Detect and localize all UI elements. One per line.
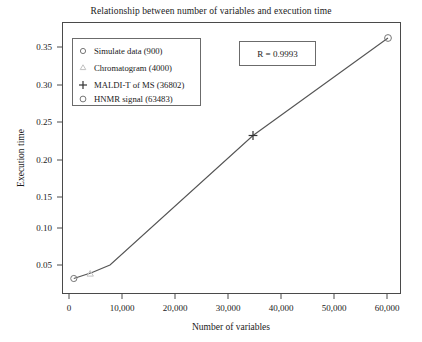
legend-label: HNMR signal (63483) xyxy=(94,94,173,104)
x-tick-label: 0 xyxy=(67,303,72,313)
y-tick-label: 0.30 xyxy=(36,80,52,90)
correlation-annotation: R = 0.9993 xyxy=(240,42,316,66)
x-tick-label: 30,000 xyxy=(216,303,241,313)
x-tick-label: 10,000 xyxy=(110,303,135,313)
x-tick-label: 50,000 xyxy=(322,303,347,313)
y-tick-label: 0.35 xyxy=(36,42,52,52)
x-tick-label: 60,000 xyxy=(375,303,400,313)
x-tick-label: 20,000 xyxy=(163,303,188,313)
legend: Simulate data (900) Chromatogram (4000) … xyxy=(73,39,201,106)
y-tick-label: 0.05 xyxy=(36,260,52,270)
x-axis-tick-labels: 0 10,000 20,000 30,000 40,000 50,000 60,… xyxy=(67,303,400,313)
y-tick-label: 0.25 xyxy=(36,117,52,127)
y-tick-label: 0.15 xyxy=(36,192,52,202)
x-axis-ticks xyxy=(69,294,387,300)
y-tick-label: 0.10 xyxy=(36,223,52,233)
legend-label: Simulate data (900) xyxy=(94,46,163,56)
y-axis-tick-labels: 0.35 0.30 0.25 0.20 0.15 0.10 0.05 xyxy=(36,42,52,270)
x-tick-label: 40,000 xyxy=(269,303,294,313)
chart-canvas: 0.35 0.30 0.25 0.20 0.15 0.10 0.05 0 10,… xyxy=(0,0,422,342)
annotation-label: R = 0.9993 xyxy=(257,49,298,59)
y-axis-title: Execution time xyxy=(16,129,26,187)
figure-container: Relationship between number of variables… xyxy=(0,0,422,342)
y-tick-label: 0.20 xyxy=(36,155,52,165)
legend-label: MALDI-T of MS (36802) xyxy=(94,80,184,90)
x-axis-title: Number of variables xyxy=(192,322,270,332)
y-axis-ticks xyxy=(57,47,63,265)
legend-label: Chromatogram (4000) xyxy=(94,63,172,73)
